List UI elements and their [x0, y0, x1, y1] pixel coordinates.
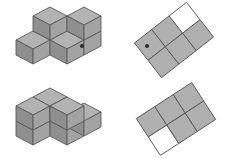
- rotated-tile-grid: [134, 2, 213, 77]
- bottom-right-grid-footprint: [116, 79, 232, 158]
- cube-stack-bottom-left: [16, 88, 101, 145]
- cube-stack-top-left: [16, 7, 101, 64]
- puzzle-row-2: [0, 79, 232, 158]
- puzzle-row-1: [0, 0, 232, 79]
- rotated-tile-grid: [136, 83, 215, 156]
- bullet-separator-right: [145, 44, 149, 48]
- bullet-separator-left: [80, 44, 84, 48]
- top-left-cube-structure: [0, 0, 116, 79]
- bottom-left-cube-structure: [0, 79, 116, 158]
- top-right-grid-footprint: [116, 0, 232, 79]
- puzzle-canvas: [0, 0, 232, 158]
